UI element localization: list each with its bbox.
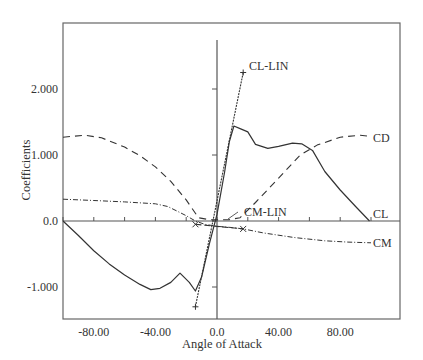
series-label-cd: CD (373, 131, 390, 145)
y-tick-label: 1.000 (31, 148, 58, 162)
coefficients-chart: -80.00-40.000.040.0080.00-1.0000.01.0002… (0, 0, 423, 360)
x-tick-label: 40.00 (265, 325, 292, 339)
x-tick-label: 80.00 (327, 325, 354, 339)
series-label-cm-lin: CM-LIN (244, 205, 287, 219)
series-label-cl: CL (373, 207, 388, 221)
x-tick-label: -40.00 (140, 325, 171, 339)
x-axis-label: Angle of Attack (182, 337, 263, 351)
axes (63, 40, 400, 319)
y-axis-label: Coefficients (19, 139, 33, 200)
y-tick-label: 0.0 (43, 214, 58, 228)
y-tick-label: 2.000 (31, 82, 58, 96)
series-label-cl-lin: CL-LIN (249, 59, 289, 73)
x-tick-label: -80.00 (78, 325, 109, 339)
tick-labels: -80.00-40.000.040.0080.00-1.0000.01.0002… (27, 82, 354, 339)
plot-frame (63, 23, 400, 319)
markers-group (192, 70, 246, 310)
y-tick-label: -1.000 (27, 280, 58, 294)
series-cl (63, 126, 370, 291)
series-label-cm: CM (373, 236, 392, 250)
